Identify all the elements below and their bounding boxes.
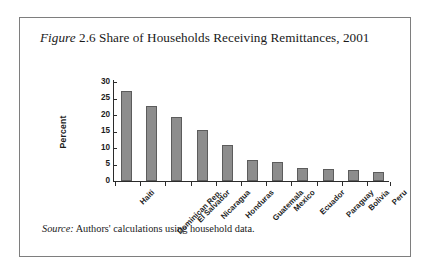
bar (297, 168, 308, 181)
bar-series (114, 45, 390, 182)
y-axis-tick-label: 5 (105, 159, 110, 168)
x-axis-tick-mark (367, 182, 368, 186)
y-axis-tick-label: 10 (101, 143, 110, 152)
figure-title: Figure 2.6 Share of Households Receiving… (40, 30, 400, 46)
x-axis-tick-label: Ecuador (318, 188, 346, 216)
x-axis-tick-mark (390, 182, 391, 186)
bar (146, 106, 157, 181)
x-axis-tick-mark (165, 182, 166, 186)
x-axis-labels: HaitiDominican Rep.El SalvadorNicaraguaH… (114, 188, 430, 248)
x-axis-tick-mark (317, 182, 318, 186)
bar (197, 130, 208, 181)
source-label: Source: (42, 223, 74, 234)
bar (323, 169, 334, 181)
bar (348, 170, 359, 181)
x-axis-tick-mark (291, 182, 292, 186)
x-axis-tick-mark (216, 182, 217, 186)
bar (171, 117, 182, 181)
x-axis-tick-mark (115, 182, 116, 186)
x-axis-tick-label: Peru (390, 188, 409, 207)
y-axis-tick-label: 15 (101, 126, 110, 135)
figure-label: Figure (40, 30, 76, 45)
y-axis-tick-label: 30 (101, 77, 110, 86)
x-axis-tick-mark (140, 182, 141, 186)
bar (247, 160, 258, 181)
x-axis-tick-mark (241, 182, 242, 186)
x-axis-tick-mark (191, 182, 192, 186)
figure-frame: Figure 2.6 Share of Households Receiving… (19, 17, 411, 257)
y-axis-tick-label: 20 (101, 110, 110, 119)
source-text: Authors' calculations using household da… (76, 223, 255, 234)
bar (222, 145, 233, 181)
figure-title-text: Share of Households Receiving Remittance… (99, 30, 369, 45)
y-axis-tick-label: 0 (105, 176, 110, 185)
figure-number: 2.6 (79, 30, 96, 45)
source-note: Source: Authors' calculations using hous… (42, 223, 255, 234)
bar (121, 91, 132, 181)
x-axis-tick-label: Haiti (137, 188, 155, 206)
chart-plot-area: Percent 051015202530 HaitiDominican Rep.… (60, 45, 400, 215)
bar (272, 162, 283, 181)
y-axis-tick-label: 25 (101, 93, 110, 102)
y-axis-title: Percent (58, 97, 68, 167)
x-axis-tick-mark (342, 182, 343, 186)
x-axis-tick-mark (266, 182, 267, 186)
bar (373, 172, 384, 181)
